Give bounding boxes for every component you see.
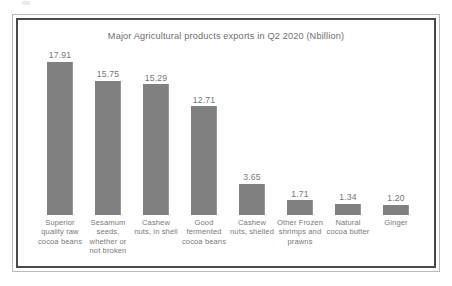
category-label: Cashew nuts, shelled [228,218,276,237]
screenshot-canvas: Major Agricultural products exports in Q… [0,0,452,286]
bar-value-label: 3.65 [243,173,261,182]
chart-title: Major Agricultural products exports in Q… [18,31,434,41]
category-label: Other Frozen shrimps and prawns [276,218,324,246]
bar-value-label: 17.91 [49,51,72,60]
bar-value-label: 15.29 [145,74,168,83]
bar-rect[interactable] [287,200,313,215]
category-label: Sesamum seeds, whether or not broken [84,218,132,256]
bar-rect[interactable] [191,106,217,215]
bar-rect[interactable] [239,184,265,215]
bar-chart: Major Agricultural products exports in Q… [18,20,434,266]
bar-column[interactable]: 17.91 [36,50,84,215]
bar-column[interactable]: 15.75 [84,50,132,215]
bar-column[interactable]: 12.71 [180,50,228,215]
category-label: Ginger [372,218,420,227]
figure-outer-frame: Major Agricultural products exports in Q… [12,14,440,272]
bar-column[interactable]: 1.34 [324,50,372,215]
category-label: Cashew nuts, in shell [132,218,180,237]
bar-rect[interactable] [383,205,409,215]
bar-column[interactable]: 1.20 [372,50,420,215]
category-label: Good fermented cocoa beans [180,218,228,246]
bar-value-label: 12.71 [193,96,216,105]
bar-value-label: 1.71 [291,190,309,199]
figure-inner-frame: Major Agricultural products exports in Q… [16,18,436,268]
bar-column[interactable]: 3.65 [228,50,276,215]
category-label: Natural cocoa butter [324,218,372,237]
bar-value-label: 15.75 [97,70,120,79]
plot-area: 17.91 15.75 15.29 12.71 [36,50,420,252]
bar-value-label: 1.34 [339,193,357,202]
scan-artifact [22,1,30,5]
bar-rect[interactable] [335,204,361,215]
bar-column[interactable]: 1.71 [276,50,324,215]
bar-rect[interactable] [47,62,73,215]
category-label: Superior quality raw cocoa beans [36,218,84,246]
bars-container: 17.91 15.75 15.29 12.71 [36,50,420,215]
bar-column[interactable]: 15.29 [132,50,180,215]
bar-value-label: 1.20 [387,194,405,203]
category-labels-container: Superior quality raw cocoa beans Sesamum… [36,218,420,256]
bar-rect[interactable] [143,84,169,215]
bar-rect[interactable] [95,81,121,216]
